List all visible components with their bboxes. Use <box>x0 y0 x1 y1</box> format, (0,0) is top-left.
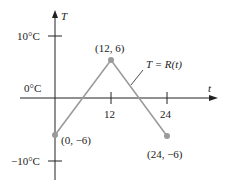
y-axis-arrow-icon <box>52 10 58 18</box>
point-label-24: (24, −6) <box>147 148 183 161</box>
x-axis-label: t <box>208 82 212 94</box>
y-tick-label-neg10: −10°C <box>11 155 40 167</box>
function-label: T = R(t) <box>146 58 182 71</box>
point-12 <box>108 57 114 63</box>
x-axis-arrow-icon <box>209 95 218 101</box>
x-tick-label-12: 12 <box>104 108 115 120</box>
function-label-leader <box>131 70 143 85</box>
point-label-0: (0, −6) <box>61 134 91 147</box>
point-0 <box>52 132 58 138</box>
chart: T t 10°C 0°C −10°C 12 24 T = R(t) (0, −6… <box>0 0 226 188</box>
y-tick-label-10: 10°C <box>17 30 40 42</box>
x-tick-label-24: 24 <box>160 108 172 120</box>
point-label-12: (12, 6) <box>95 42 125 55</box>
y-axis-label: T <box>61 10 68 22</box>
y-tick-label-0: 0°C <box>24 82 41 94</box>
point-24 <box>164 133 170 139</box>
